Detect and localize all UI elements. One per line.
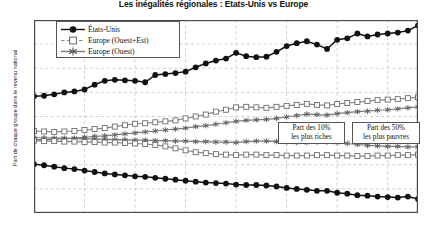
annotation-line-2: les plus pauvres bbox=[356, 133, 416, 142]
legend-label: Europe (Ouest+Est) bbox=[88, 36, 149, 45]
chart-figure: Les inégalités régionales : États-Unis v… bbox=[0, 0, 427, 236]
chart-legend: États-Unis Europe (Ouest+Est) Europe (Ou… bbox=[56, 21, 180, 58]
y-axis-label: Part de chaque groupe dans le revenu nat… bbox=[12, 23, 18, 193]
star-icon bbox=[60, 46, 86, 57]
legend-label: États-Unis bbox=[88, 25, 120, 34]
legend-item-europe-ouest-est: Europe (Ouest+Est) bbox=[60, 35, 179, 46]
open-square-icon bbox=[60, 35, 86, 46]
filled-circle-icon bbox=[60, 24, 86, 35]
legend-label: Europe (Ouest) bbox=[88, 47, 135, 56]
annotation-top10: Part des 10% les plus riches bbox=[278, 122, 345, 144]
series-bottom50-tats-unis bbox=[34, 161, 418, 202]
annotation-line-2: les plus riches bbox=[282, 133, 341, 142]
annotation-line-1: Part des 10% bbox=[282, 124, 341, 133]
legend-item-europe-ouest: Europe (Ouest) bbox=[60, 46, 179, 57]
annotation-line-1: Part des 50% bbox=[356, 124, 416, 133]
chart-title: Les inégalités régionales : États-Unis v… bbox=[0, 0, 427, 9]
annotation-bottom50: Part des 50% les plus pauvres bbox=[352, 122, 420, 144]
legend-item-etats-unis: États-Unis bbox=[60, 24, 179, 35]
